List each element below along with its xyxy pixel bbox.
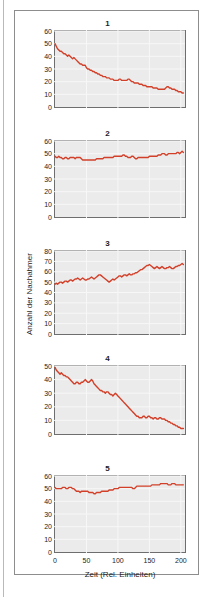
y-tick-label: 0 bbox=[38, 104, 52, 111]
data-line-2 bbox=[55, 151, 183, 160]
plot-canvas-1 bbox=[54, 30, 185, 108]
plot-area-1 bbox=[54, 30, 186, 108]
y-tick-label: 0 bbox=[38, 331, 52, 338]
y-tick-label: 80 bbox=[38, 248, 52, 255]
y-axis-label: Anzahl der Nachahmer bbox=[25, 253, 34, 335]
plot-area-3 bbox=[54, 250, 186, 335]
y-tick-label: 40 bbox=[38, 289, 52, 296]
chart-panel-1: 10102030405060 bbox=[15, 19, 200, 108]
y-tick-label: 20 bbox=[38, 523, 52, 530]
plot-canvas-3 bbox=[54, 250, 185, 335]
y-tick-label: 50 bbox=[38, 363, 52, 370]
plot-canvas-4 bbox=[54, 365, 185, 435]
x-tick-label: 50 bbox=[83, 557, 91, 564]
y-tick-label: 10 bbox=[38, 417, 52, 424]
y-tick-label: 50 bbox=[38, 40, 52, 47]
plot-canvas-2 bbox=[54, 140, 185, 218]
chart-panel-4: 401020304050 bbox=[15, 354, 200, 435]
y-tick-label: 30 bbox=[38, 66, 52, 73]
plot-area-2 bbox=[54, 140, 186, 218]
chart-panel-3: 301020304050607080 bbox=[15, 239, 200, 335]
panel-stack: 1010203040506020102030405060301020304050… bbox=[15, 11, 198, 574]
y-tick-label: 40 bbox=[38, 498, 52, 505]
y-tick-label: 20 bbox=[38, 78, 52, 85]
y-tick-label: 50 bbox=[38, 279, 52, 286]
y-tick-label: 40 bbox=[38, 376, 52, 383]
y-tick-label: 30 bbox=[38, 176, 52, 183]
y-tick-label: 30 bbox=[38, 511, 52, 518]
y-tick-label: 50 bbox=[38, 150, 52, 157]
x-axis-label: Zeit (Rel. Einheiten) bbox=[54, 570, 186, 579]
x-tick-label: 150 bbox=[144, 557, 156, 564]
y-tick-label: 30 bbox=[38, 299, 52, 306]
y-tick-label: 10 bbox=[38, 91, 52, 98]
y-tick-label: 40 bbox=[38, 53, 52, 60]
y-tick-label: 20 bbox=[38, 188, 52, 195]
y-tick-label: 50 bbox=[38, 485, 52, 492]
data-line-1 bbox=[55, 44, 183, 93]
y-tick-label: 60 bbox=[38, 473, 52, 480]
plot-area-5 bbox=[54, 475, 186, 553]
y-tick-label: 0 bbox=[38, 214, 52, 221]
y-tick-label: 10 bbox=[38, 536, 52, 543]
y-tick-label: 0 bbox=[38, 549, 52, 556]
page-edge-line bbox=[3, 0, 4, 597]
x-tick-label: 0 bbox=[53, 557, 57, 564]
y-tick-label: 20 bbox=[38, 310, 52, 317]
chart-panel-2: 20102030405060 bbox=[15, 129, 200, 218]
y-tick-label: 30 bbox=[38, 390, 52, 397]
y-tick-label: 0 bbox=[38, 431, 52, 438]
plot-area-4 bbox=[54, 365, 186, 435]
figure-frame: 1010203040506020102030405060301020304050… bbox=[14, 10, 199, 575]
chart-panel-5: 50102030405060 bbox=[15, 464, 200, 553]
y-tick-label: 70 bbox=[38, 258, 52, 265]
plot-canvas-5 bbox=[54, 475, 185, 553]
y-tick-label: 10 bbox=[38, 201, 52, 208]
x-tick-label: 100 bbox=[112, 557, 124, 564]
y-tick-label: 60 bbox=[38, 268, 52, 275]
y-tick-label: 40 bbox=[38, 163, 52, 170]
y-tick-label: 60 bbox=[38, 138, 52, 145]
y-tick-label: 10 bbox=[38, 320, 52, 327]
y-tick-label: 60 bbox=[38, 28, 52, 35]
data-line-4 bbox=[55, 367, 183, 428]
x-tick-label: 200 bbox=[175, 557, 187, 564]
x-axis-ticks: 050100150200 bbox=[54, 557, 186, 566]
data-line-3 bbox=[55, 263, 183, 284]
y-tick-label: 20 bbox=[38, 403, 52, 410]
